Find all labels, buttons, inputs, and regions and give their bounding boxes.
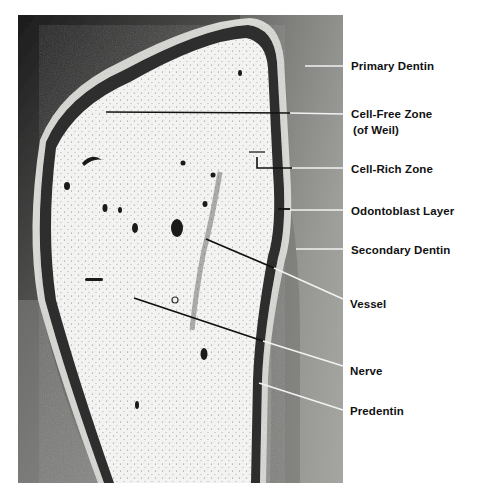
label-secondary-dentin: Secondary Dentin: [351, 243, 450, 257]
label-odontoblast-layer: Odontoblast Layer: [351, 204, 454, 218]
label-primary-dentin: Primary Dentin: [351, 59, 434, 73]
label-vessel: Vessel: [350, 297, 386, 311]
micrograph-photo: [18, 15, 343, 483]
leader-cell-free-light: [290, 113, 343, 114]
label-cell-rich-zone: Cell-Rich Zone: [351, 162, 433, 176]
label-cell-free-zone-sub: (of Weil): [353, 123, 399, 137]
label-cell-free-zone: Cell-Free Zone: [351, 107, 432, 121]
label-nerve: Nerve: [350, 364, 382, 378]
leader-cell-free-dark: [106, 112, 290, 113]
label-predentin: Predentin: [350, 404, 404, 418]
